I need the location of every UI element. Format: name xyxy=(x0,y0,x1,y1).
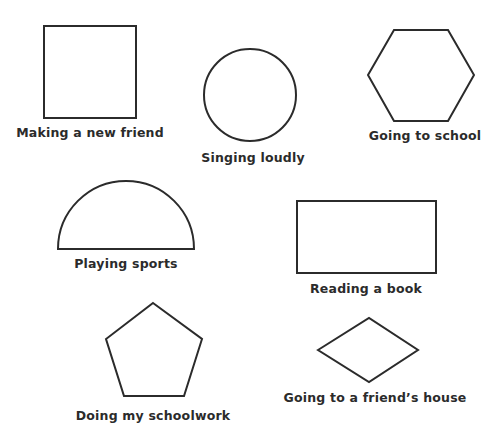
shapes-worksheet: Making a new friend Singing loudly Going… xyxy=(0,0,500,441)
circle-shape xyxy=(204,49,296,141)
hexagon-label: Going to school xyxy=(369,128,481,143)
square-label: Making a new friend xyxy=(16,125,164,140)
square-shape xyxy=(44,26,136,118)
rectangle-shape xyxy=(297,201,436,273)
rhombus-label: Going to a friend’s house xyxy=(283,390,466,405)
rectangle-label: Reading a book xyxy=(310,281,422,296)
hexagon-shape xyxy=(368,30,474,121)
semicircle-shape xyxy=(58,181,194,249)
circle-label: Singing loudly xyxy=(201,150,305,165)
shapes-layer xyxy=(0,0,500,441)
semicircle-label: Playing sports xyxy=(74,256,177,271)
pentagon-shape xyxy=(106,303,202,396)
rhombus-shape xyxy=(318,318,418,382)
pentagon-label: Doing my schoolwork xyxy=(76,408,231,423)
